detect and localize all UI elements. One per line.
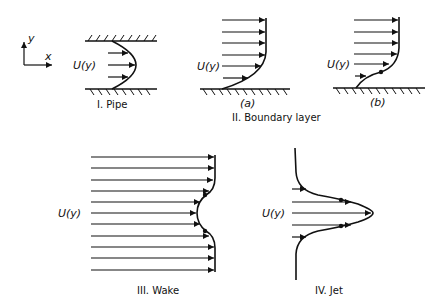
- boundary-layer-b-panel: U(y) (b): [327, 17, 425, 109]
- boundary-layer-b-profile: [356, 17, 399, 88]
- wake-velocity-profile: [197, 155, 215, 272]
- wall-hatch: [336, 88, 420, 94]
- x-axis-label: x: [44, 50, 52, 63]
- velocity-label: U(y): [262, 207, 285, 220]
- pipe-bottom-hatch: [90, 89, 150, 95]
- velocity-label: U(y): [58, 207, 81, 220]
- velocity-label: U(y): [197, 60, 220, 73]
- boundary-layer-a-panel: U(y) (a) II. Boundary layer: [197, 18, 322, 123]
- wake-panel: U(y) III. Wake: [58, 155, 215, 296]
- pipe-panel: U(y) I. Pipe: [73, 35, 157, 110]
- jet-panel: U(y) IV. Jet: [262, 148, 373, 296]
- pipe-title: I. Pipe: [97, 99, 127, 110]
- sublabel-b: (b): [370, 96, 386, 109]
- velocity-profiles-diagram: y x U(y) I. Pipe: [0, 0, 443, 305]
- velocity-label: U(y): [73, 59, 96, 72]
- coordinate-axes: y x: [24, 32, 52, 65]
- jet-title: IV. Jet: [315, 285, 343, 296]
- jet-velocity-profile: [295, 148, 373, 280]
- wall-hatch: [203, 89, 287, 95]
- sublabel-a: (a): [240, 97, 255, 110]
- inflection-point: [379, 70, 383, 74]
- wake-title: III. Wake: [137, 285, 179, 296]
- boundary-layer-title: II. Boundary layer: [232, 112, 322, 123]
- y-axis-label: y: [27, 32, 35, 45]
- inflection-point: [203, 229, 207, 233]
- inflection-point: [203, 193, 207, 197]
- pipe-top-hatch: [88, 35, 156, 41]
- velocity-label: U(y): [327, 58, 350, 71]
